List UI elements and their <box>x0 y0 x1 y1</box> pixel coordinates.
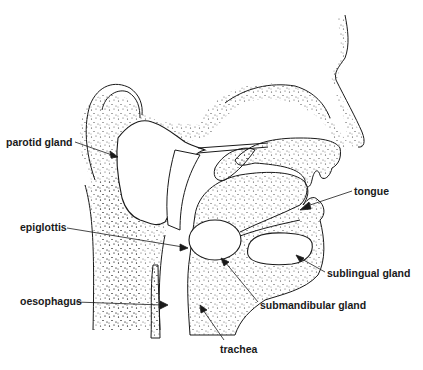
anatomy-diagram: parotid gland epiglottis oesophagus tong… <box>0 0 423 370</box>
label-tongue: tongue <box>354 186 389 197</box>
label-sublingual-gland: sublingual gland <box>327 268 410 279</box>
label-oesophagus: oesophagus <box>20 296 82 307</box>
label-submandibular-gland: submandibular gland <box>260 300 366 311</box>
label-epiglottis: epiglottis <box>20 222 67 233</box>
label-trachea: trachea <box>220 344 257 355</box>
submandibular-gland-shape <box>189 220 241 260</box>
label-parotid-gland: parotid gland <box>6 137 73 148</box>
